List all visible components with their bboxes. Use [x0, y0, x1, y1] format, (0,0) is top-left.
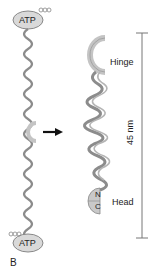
n-terminus-label: N [95, 191, 101, 199]
scale-label: 45 nm [126, 120, 135, 145]
panel-label: B [10, 258, 17, 268]
hinge-right-icon [90, 38, 105, 72]
c-terminus-label: C [95, 203, 101, 211]
head-label: Head [112, 198, 134, 207]
hinge-left-icon [28, 123, 36, 141]
hinge-label: Hinge [110, 58, 134, 67]
arrow-right-icon [43, 128, 63, 136]
scale-bar [136, 33, 148, 238]
atp-bottom-label: ATP [19, 239, 36, 248]
atp-top-label: ATP [19, 16, 36, 25]
